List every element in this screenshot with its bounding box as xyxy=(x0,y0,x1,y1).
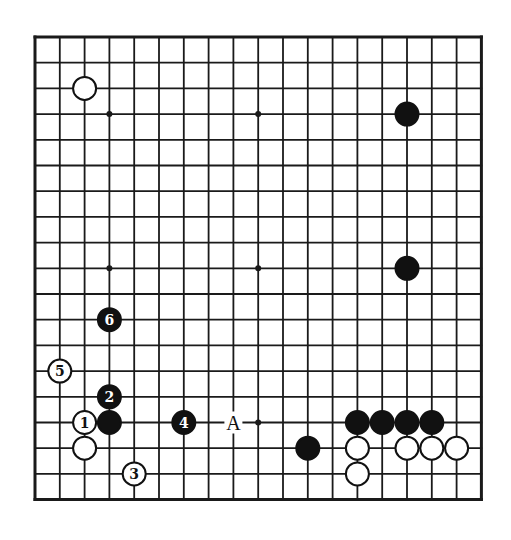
stone-disc xyxy=(445,437,468,460)
board-point-label: A xyxy=(226,412,241,434)
black-stone xyxy=(420,411,443,434)
black-stone: 4 xyxy=(172,411,195,434)
move-number: 4 xyxy=(179,415,189,431)
black-stone xyxy=(396,103,419,126)
move-number: 3 xyxy=(129,466,139,482)
stone-disc xyxy=(346,411,369,434)
white-stone xyxy=(346,437,369,460)
stone-disc xyxy=(73,437,96,460)
black-stone: 2 xyxy=(98,385,121,408)
black-stone xyxy=(98,411,121,434)
stone-disc xyxy=(396,437,419,460)
stone-disc xyxy=(296,437,319,460)
white-stone xyxy=(73,437,96,460)
star-point xyxy=(255,111,261,117)
white-stone xyxy=(420,437,443,460)
star-point xyxy=(106,265,112,271)
stone-disc xyxy=(371,411,394,434)
stone-disc xyxy=(98,411,121,434)
star-point xyxy=(255,420,261,426)
black-stone xyxy=(396,411,419,434)
move-number: 1 xyxy=(80,415,90,431)
stone-disc xyxy=(396,257,419,280)
white-stone xyxy=(73,77,96,100)
black-stone xyxy=(296,437,319,460)
stone-disc xyxy=(346,437,369,460)
star-point xyxy=(106,111,112,117)
black-stone xyxy=(346,411,369,434)
stone-disc xyxy=(396,411,419,434)
board-labels: A xyxy=(224,412,242,434)
move-number: 2 xyxy=(105,389,115,405)
stone-disc xyxy=(420,411,443,434)
black-stone xyxy=(371,411,394,434)
white-stone xyxy=(445,437,468,460)
black-stone xyxy=(396,257,419,280)
black-stone: 6 xyxy=(98,308,121,331)
move-number: 6 xyxy=(105,312,115,328)
stone-disc xyxy=(346,462,369,485)
white-stone: 3 xyxy=(123,462,146,485)
stone-disc xyxy=(396,103,419,126)
white-stone: 1 xyxy=(73,411,96,434)
go-board-diagram: A 652143 xyxy=(0,0,511,540)
star-point xyxy=(255,265,261,271)
stone-disc xyxy=(420,437,443,460)
stone-disc xyxy=(73,77,96,100)
white-stone: 5 xyxy=(48,360,71,383)
move-number: 5 xyxy=(55,363,65,379)
white-stone xyxy=(396,437,419,460)
white-stone xyxy=(346,462,369,485)
